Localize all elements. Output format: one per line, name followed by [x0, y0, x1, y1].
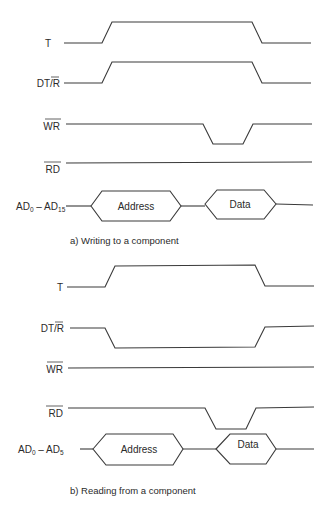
- signal-rd-write: RD: [44, 162, 312, 175]
- panel-read: T DT/R WR RD AD0 – AD5 Address: [18, 265, 314, 496]
- signal-bus-write: AD0 – AD15 Address Data: [16, 190, 313, 221]
- signal-label-dtr: DT/R: [41, 323, 64, 334]
- signal-wr-read: WR: [46, 362, 314, 375]
- signal-dtr-write: DT/R: [37, 62, 311, 89]
- waveform-wr: [66, 124, 312, 144]
- caption-read: b) Reading from a component: [70, 485, 196, 496]
- signal-label-rd: RD: [49, 408, 63, 419]
- signal-rd-read: RD: [46, 406, 314, 429]
- signal-wr-write: WR: [43, 119, 312, 144]
- bus-data-label: Data: [229, 199, 251, 210]
- waveform-dtr: [70, 326, 314, 348]
- timing-diagram: T DT/R WR RD AD0 – AD15 Address: [0, 0, 329, 506]
- waveform-t: [67, 265, 314, 287]
- signal-bus-read: AD0 – AD5 Address Data: [18, 434, 314, 465]
- signal-t-read: T: [57, 265, 314, 293]
- signal-label-t: T: [45, 38, 51, 49]
- signal-dtr-read: DT/R: [41, 322, 314, 348]
- bus-idle-line: [276, 204, 313, 205]
- bus-address-label: Address: [118, 201, 155, 212]
- bus-data-label: Data: [237, 439, 259, 450]
- signal-label-bus: AD0 – AD15: [16, 201, 66, 213]
- signal-label-t: T: [57, 282, 63, 293]
- signal-label-wr: WR: [46, 364, 63, 375]
- panel-write: T DT/R WR RD AD0 – AD15 Address: [16, 22, 313, 246]
- bus-address-label: Address: [121, 444, 158, 455]
- signal-label-rd: RD: [46, 164, 60, 175]
- waveform-wr: [68, 367, 314, 368]
- waveform-rd: [68, 407, 314, 429]
- signal-label-wr: WR: [43, 121, 60, 132]
- signal-label-bus: AD0 – AD5: [18, 444, 64, 456]
- signal-label-dtr: DT/R: [37, 78, 60, 89]
- signal-t-write: T: [45, 22, 311, 49]
- caption-write: a) Writing to a component: [70, 235, 179, 246]
- waveform-t: [64, 22, 311, 43]
- waveform-rd: [66, 162, 312, 163]
- waveform-dtr: [64, 62, 311, 83]
